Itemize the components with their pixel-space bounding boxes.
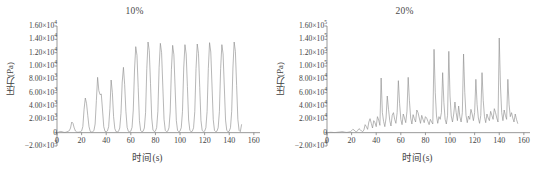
x-tick-label: 80: [145, 136, 165, 145]
x-tick-label: 100: [440, 136, 460, 145]
x-tick-label: 60: [121, 136, 141, 145]
x-tick-label: 20: [342, 136, 362, 145]
x-tick-label: 40: [96, 136, 116, 145]
x-tick-label: 20: [72, 136, 92, 145]
x-tick-label: 120: [465, 136, 485, 145]
data-line-20pct: [327, 38, 518, 133]
y-tick-label: 1.00×105: [299, 62, 327, 70]
x-tick-label: 0: [317, 136, 337, 145]
x-tick-label: 100: [170, 136, 190, 145]
x-tick-label: 0: [47, 136, 67, 145]
x-tick-label: 160: [514, 136, 534, 145]
y-tick-label: 2.00×104: [299, 115, 327, 123]
x-axis-label-10pct: 时间(s): [40, 150, 255, 164]
x-tick-label: 140: [489, 136, 509, 145]
chart-panel-20pct: 20% 压力(Pa) −2.00×10402.00×1044.00×1046.0…: [270, 0, 539, 172]
y-tick-label: 4.00×103: [29, 102, 57, 110]
y-tick-label: 8.00×104: [299, 75, 327, 83]
y-tick-label: 1.60×105: [299, 22, 327, 30]
y-tick-label: 1.60×104: [29, 22, 57, 30]
x-tick-label: 160: [244, 136, 264, 145]
y-tick-label: 2.00×103: [29, 115, 57, 123]
y-tick-label: 6.00×103: [29, 89, 57, 97]
figure-container: 10% 压力(Pa) −2.00×10302.00×1034.00×1036.0…: [0, 0, 539, 172]
x-tick-label: 80: [415, 136, 435, 145]
x-tick-label: 40: [366, 136, 386, 145]
y-tick-label: 8.00×103: [29, 75, 57, 83]
x-tick-label: 120: [195, 136, 215, 145]
data-line-10pct: [57, 42, 242, 133]
x-tick-label: 140: [219, 136, 239, 145]
y-tick-label: 1.40×104: [29, 35, 57, 43]
y-tick-label: 1.20×104: [29, 49, 57, 57]
x-tick-label: 60: [391, 136, 411, 145]
y-tick-label: 1.20×105: [299, 49, 327, 57]
y-tick-label: 1.40×105: [299, 35, 327, 43]
y-tick-label: 1.00×104: [29, 62, 57, 70]
chart-panel-10pct: 10% 压力(Pa) −2.00×10302.00×1034.00×1036.0…: [0, 0, 269, 172]
y-tick-label: 6.00×104: [299, 89, 327, 97]
x-axis-label-20pct: 时间(s): [310, 150, 525, 164]
y-tick-label: 4.00×104: [299, 102, 327, 110]
